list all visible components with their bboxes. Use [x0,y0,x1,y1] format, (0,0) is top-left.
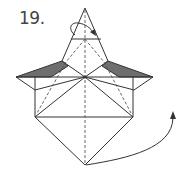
center-point [83,75,86,78]
left-shaded-flap [16,61,68,77]
shaded-flaps [16,61,153,77]
right-shaded-flap [102,61,153,77]
origami-diagram [0,0,181,175]
curved-arrow-icon [86,118,173,165]
dashed-creases [37,10,131,165]
outline [16,8,153,165]
